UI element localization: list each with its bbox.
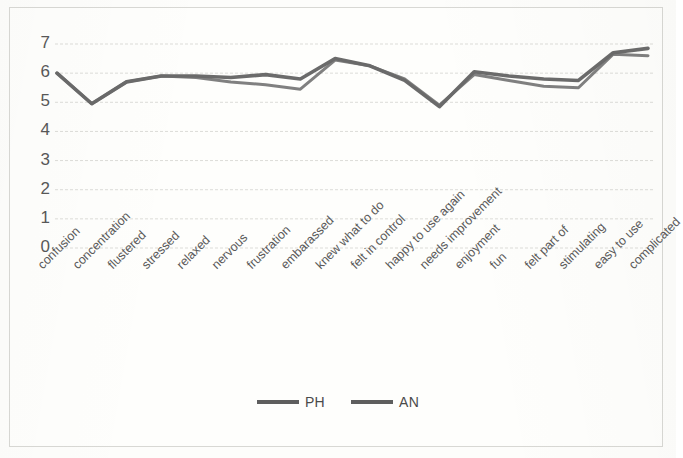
y-tick-label: 1 (24, 208, 50, 228)
legend-label-an: AN (399, 394, 419, 410)
y-tick-label: 4 (24, 120, 50, 140)
legend-line-swatch-an (351, 400, 393, 404)
y-tick-label: 2 (24, 179, 50, 199)
gridlines (55, 44, 654, 248)
y-tick-label: 7 (24, 33, 50, 53)
legend-item-ph[interactable]: PH (257, 394, 325, 410)
legend-line-swatch-ph (257, 400, 299, 404)
legend-label-ph: PH (305, 394, 325, 410)
y-tick-label: 3 (24, 150, 50, 170)
y-tick-label: 5 (24, 91, 50, 111)
chart-legend: PH AN (0, 394, 676, 410)
series-lines (57, 48, 648, 106)
y-tick-label: 6 (24, 62, 50, 82)
legend-item-an[interactable]: AN (351, 394, 419, 410)
